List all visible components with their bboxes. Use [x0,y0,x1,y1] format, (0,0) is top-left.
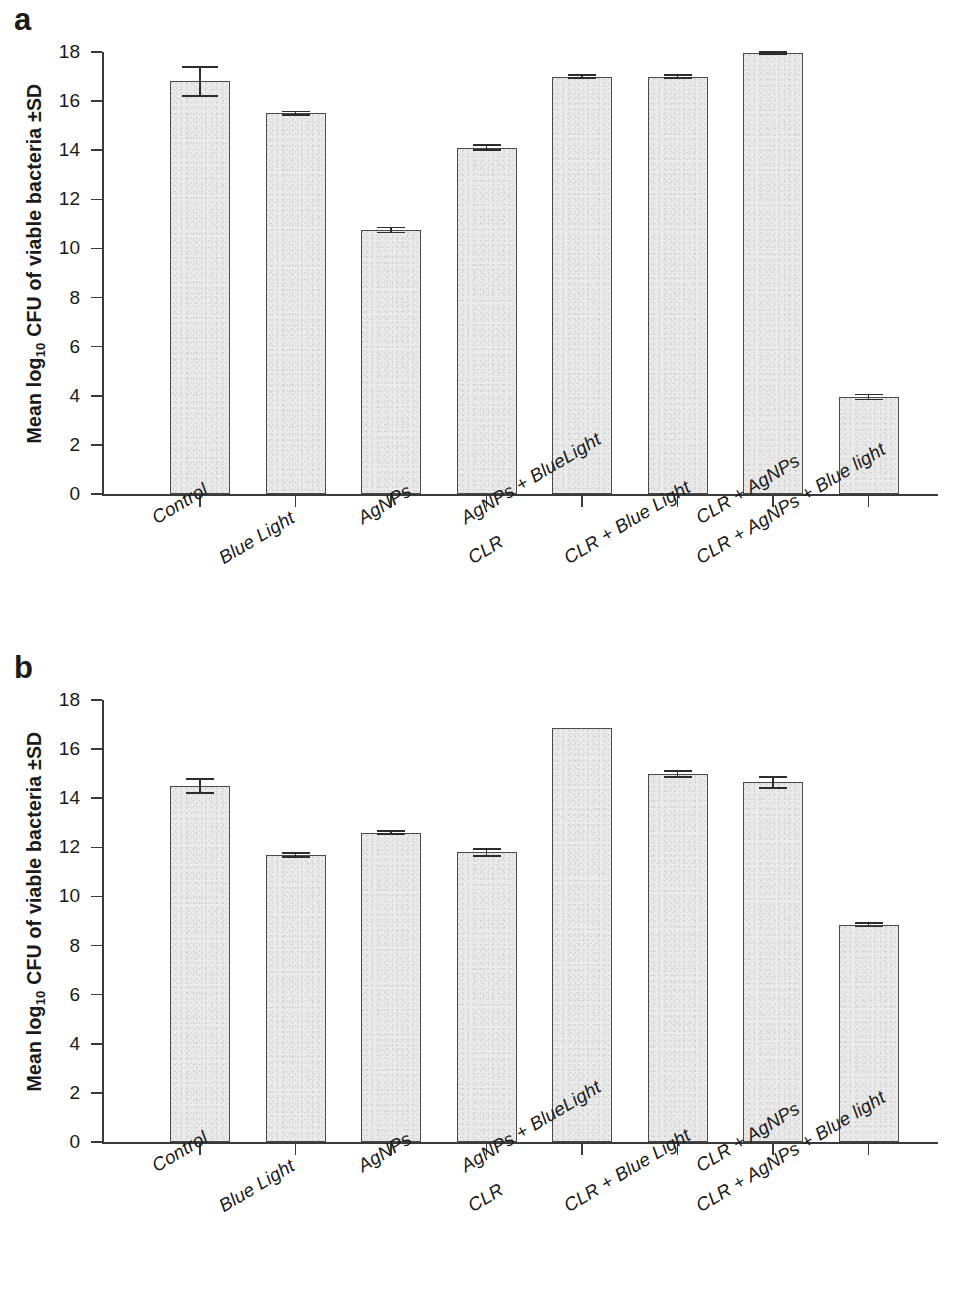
error-bar-cap-lower [473,855,501,857]
y-tick-label: 0 [40,483,80,505]
error-bar-cap-upper [473,144,501,146]
error-bar-cap-lower [664,77,692,79]
error-bar-cap-lower [377,232,405,234]
y-tick-mark [91,748,102,750]
panel-a-y-axis-line [102,52,104,494]
panel-b-letter: b [14,652,33,683]
y-tick-mark [91,248,102,250]
y-tick-mark [91,444,102,446]
x-tick-mark [295,496,297,507]
y-tick-mark [91,346,102,348]
x-tick-label: Blue Light [215,1155,299,1217]
bar [552,77,612,494]
error-bar-cap-upper [377,227,405,229]
y-tick-label: 4 [40,1033,80,1055]
y-tick-label: 2 [40,434,80,456]
y-tick-label: 6 [40,984,80,1006]
error-bar-cap-lower [377,833,405,835]
y-tick-mark [91,1043,102,1045]
y-tick-label: 16 [40,738,80,760]
error-bar-cap-upper [759,776,787,778]
y-tick-mark [91,199,102,201]
error-bar-cap-upper [855,394,883,396]
y-tick-label: 18 [40,41,80,63]
panel-b-y-axis-line [102,700,104,1142]
panel-b-plot-area: 024681012141618 [102,700,938,1142]
error-bar-stem [199,779,201,793]
bar [266,855,326,1142]
error-bar-cap-lower [759,787,787,789]
error-bar-cap-lower [855,399,883,401]
bar [648,774,708,1142]
x-tick-mark [868,1144,870,1155]
error-bar-cap-lower [182,95,218,97]
panel-a: a Mean log10 CFU of viable bacteria ±SD … [0,0,954,648]
bar [457,148,517,494]
panel-b: b Mean log10 CFU of viable bacteria ±SD … [0,648,954,1296]
y-tick-mark [91,994,102,996]
error-bar-cap-upper [473,848,501,850]
bar [648,77,708,494]
x-tick-mark [295,1144,297,1155]
bar [266,113,326,494]
error-bar-cap-upper [855,922,883,924]
x-tick-mark [581,496,583,507]
y-tick-label: 10 [40,885,80,907]
y-tick-mark [91,149,102,151]
bar [170,81,230,494]
error-bar-cap-lower [759,53,787,55]
y-tick-label: 4 [40,385,80,407]
error-bar-cap-upper [186,778,214,780]
y-tick-mark [91,297,102,299]
error-bar-cap-upper [282,852,310,854]
bar [743,782,803,1142]
y-tick-mark [91,100,102,102]
panel-a-plot-area: 024681012141618 [102,52,938,494]
y-tick-label: 6 [40,336,80,358]
y-tick-mark [91,395,102,397]
y-tick-mark [91,797,102,799]
error-bar-cap-upper [182,66,218,68]
bar [457,852,517,1142]
x-tick-label: CLR [464,531,508,569]
y-tick-label: 14 [40,139,80,161]
error-bar-cap-lower [473,149,501,151]
error-bar-cap-lower [568,77,596,79]
bar [170,786,230,1142]
bar [361,230,421,494]
bar [552,728,612,1142]
y-tick-mark [91,945,102,947]
error-bar-cap-lower [664,776,692,778]
error-bar-cap-lower [282,856,310,858]
error-bar-cap-lower [855,926,883,928]
y-tick-mark [91,1092,102,1094]
panel-a-letter: a [14,4,31,35]
y-tick-label: 14 [40,787,80,809]
y-tick-label: 10 [40,237,80,259]
x-tick-label: CLR [464,1179,508,1217]
y-tick-label: 0 [40,1131,80,1153]
error-bar-cap-upper [377,830,405,832]
y-tick-label: 12 [40,836,80,858]
y-tick-label: 16 [40,90,80,112]
x-tick-mark [581,1144,583,1155]
y-tick-label: 8 [40,287,80,309]
y-tick-label: 2 [40,1082,80,1104]
y-tick-label: 18 [40,689,80,711]
bar [361,833,421,1142]
x-tick-mark [868,496,870,507]
bar [743,53,803,494]
y-tick-mark [91,1141,102,1143]
error-bar-cap-lower [186,792,214,794]
y-tick-label: 8 [40,935,80,957]
x-tick-label: Blue Light [215,507,299,569]
y-tick-mark [91,51,102,53]
y-tick-mark [91,896,102,898]
error-bar-cap-upper [282,111,310,113]
error-bar-cap-upper [664,770,692,772]
error-bar-stem [199,67,201,96]
y-tick-mark [91,699,102,701]
error-bar-cap-lower [282,114,310,116]
y-tick-mark [91,847,102,849]
y-tick-label: 12 [40,188,80,210]
